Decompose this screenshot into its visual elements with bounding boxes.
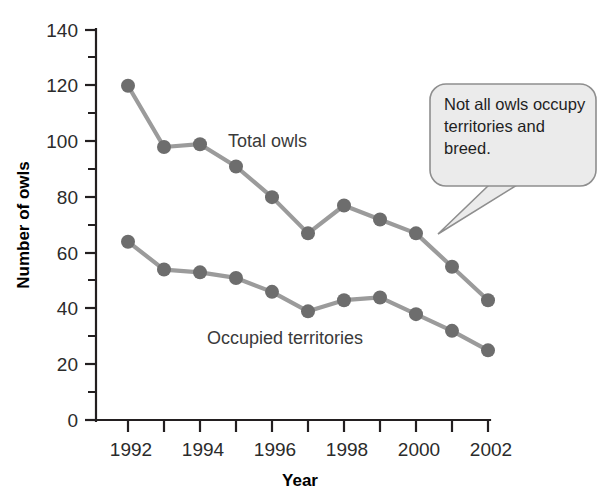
- data-point: [481, 343, 495, 357]
- data-point: [229, 271, 243, 285]
- data-point: [301, 226, 315, 240]
- series-label-total-owls: Total owls: [228, 131, 307, 151]
- y-tick-label-40: 40: [57, 298, 78, 319]
- y-tick-label-60: 60: [57, 243, 78, 264]
- data-point: [445, 260, 459, 274]
- callout-line-3: breed.: [444, 139, 491, 157]
- callout-line-2: territories and: [444, 117, 545, 135]
- data-point: [337, 199, 351, 213]
- data-point: [193, 265, 207, 279]
- data-point: [373, 290, 387, 304]
- x-tick-label-1992: 1992: [110, 439, 152, 460]
- data-point: [445, 324, 459, 338]
- data-point: [373, 212, 387, 226]
- owl-population-chart: Number of owls 0 20 40 60: [0, 0, 604, 499]
- x-tick-label-1998: 1998: [326, 439, 368, 460]
- y-tick-label-100: 100: [46, 131, 78, 152]
- data-point: [481, 293, 495, 307]
- y-axis-tick-labels: 0 20 40 60 80 100 120 140: [46, 20, 78, 431]
- x-tick-label-1996: 1996: [254, 439, 296, 460]
- data-point: [265, 285, 279, 299]
- x-axis-ticks: [128, 420, 488, 432]
- y-tick-label-20: 20: [57, 354, 78, 375]
- data-point: [409, 226, 423, 240]
- data-point: [157, 140, 171, 154]
- data-point: [229, 160, 243, 174]
- data-point: [193, 137, 207, 151]
- data-point: [121, 79, 135, 93]
- y-tick-label-120: 120: [46, 75, 78, 96]
- y-axis-ticks: [85, 30, 96, 420]
- x-tick-label-1994: 1994: [182, 439, 225, 460]
- x-axis-tick-labels: 1992 1994 1996 1998 2000 2002: [110, 439, 512, 460]
- chart-svg: Number of owls 0 20 40 60: [0, 0, 604, 499]
- x-tick-label-2000: 2000: [398, 439, 440, 460]
- y-tick-label-140: 140: [46, 20, 78, 41]
- data-point: [157, 263, 171, 277]
- x-axis-title: Year: [282, 471, 318, 490]
- callout-annotation: Not all owls occupy territories and bree…: [430, 84, 596, 234]
- x-tick-label-2002: 2002: [470, 439, 512, 460]
- data-point: [301, 304, 315, 318]
- y-tick-label-80: 80: [57, 187, 78, 208]
- callout-line-1: Not all owls occupy: [444, 95, 586, 113]
- data-point: [265, 190, 279, 204]
- data-point: [337, 293, 351, 307]
- series-label-occupied-territories: Occupied territories: [207, 328, 363, 348]
- y-tick-label-0: 0: [67, 410, 78, 431]
- y-axis-title: Number of owls: [14, 161, 33, 289]
- callout-tail: [438, 185, 517, 234]
- data-point: [121, 235, 135, 249]
- data-point: [409, 307, 423, 321]
